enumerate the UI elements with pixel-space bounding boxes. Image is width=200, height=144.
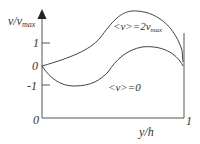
y-axis-arrow-icon	[38, 9, 47, 19]
y-axis-label: v/vmax	[8, 14, 36, 29]
annotation-v-0: <v>=0	[108, 81, 141, 93]
x-end-label: 1	[186, 114, 192, 128]
tick-label-minus-1: -1	[27, 79, 37, 93]
tick-label-1: 1	[33, 36, 39, 50]
annotation-v-2vmax: <v>=2vmax	[113, 20, 163, 34]
velocity-profile-diagram: v/vmax 1 0 -1 0 y/h 1 <v>=2vmax <v>=0	[0, 0, 200, 144]
tick-label-0: 0	[32, 59, 38, 73]
origin-label: 0	[33, 113, 39, 127]
x-axis-label: y/h	[138, 125, 154, 139]
